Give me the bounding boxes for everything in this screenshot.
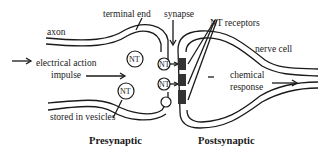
label-chemical: chemical bbox=[230, 70, 264, 80]
label-electrical-action: electrical action bbox=[36, 58, 96, 68]
nerve-cell-upper-outer bbox=[178, 31, 318, 69]
label-nt-receptors: NT receptors bbox=[210, 18, 260, 28]
receptor-1 bbox=[178, 58, 186, 70]
vesicle-label-3: NT bbox=[159, 60, 170, 69]
vesicle-label-2: NT bbox=[120, 87, 131, 96]
label-impulse: impulse bbox=[51, 70, 81, 80]
label-synapse: synapse bbox=[164, 9, 194, 19]
vesicle-label-4: NT bbox=[159, 80, 170, 89]
vesicle-3 bbox=[161, 97, 171, 107]
receptor-3 bbox=[178, 90, 186, 104]
receptor-2 bbox=[178, 74, 186, 86]
label-stored-in-vesicles: stored in vesicles bbox=[50, 112, 115, 122]
synapse-drawing: NT NT NT NT bbox=[0, 0, 320, 161]
terminal-end-pointer bbox=[136, 18, 142, 30]
label-axon: axon bbox=[47, 27, 65, 37]
label-postsynaptic: Postsynaptic bbox=[198, 136, 255, 146]
label-terminal-end: terminal end bbox=[103, 9, 151, 19]
label-presynaptic: Presynaptic bbox=[89, 136, 142, 146]
label-nerve-cell: nerve cell bbox=[255, 44, 292, 54]
label-response: response bbox=[230, 82, 263, 92]
synapse-diagram: NT NT NT NT axon terminal end synapse NT… bbox=[0, 0, 320, 161]
vesicle-label-1: NT bbox=[129, 55, 140, 64]
